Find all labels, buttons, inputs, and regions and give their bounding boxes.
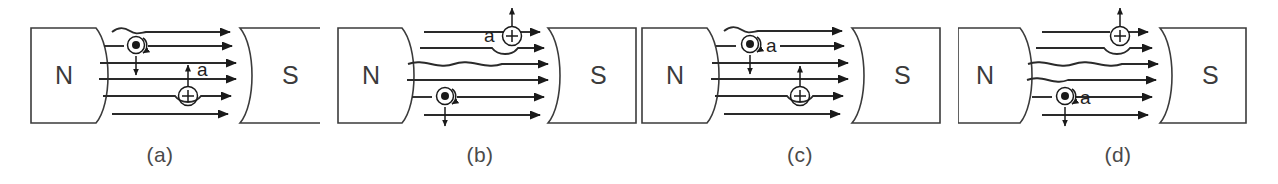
charge-negative: a — [1057, 87, 1092, 126]
acceleration-label-a: a — [484, 25, 495, 46]
acceleration-label-a: a — [766, 35, 777, 56]
south-pole-label: S — [590, 61, 607, 89]
south-pole-block — [240, 28, 320, 123]
charge-positive: a — [179, 59, 209, 106]
south-pole-label: S — [282, 61, 299, 89]
charge-positive — [1111, 8, 1130, 46]
charge-negative — [437, 88, 456, 127]
field-lines — [711, 27, 848, 114]
field-lines — [407, 32, 548, 115]
panel-d: N S — [958, 0, 1278, 184]
figure-root: N S — [0, 0, 1278, 184]
plus-sign-icon — [506, 30, 518, 42]
north-pole-label: N — [976, 61, 994, 89]
north-pole-label: N — [362, 61, 380, 89]
charge-negative — [128, 37, 147, 76]
charge-positive: a — [484, 8, 522, 46]
electron-dot-center — [1061, 92, 1069, 100]
panel-caption-d: (d) — [958, 143, 1278, 167]
panel-caption-c: (c) — [640, 143, 960, 167]
electron-dot-center — [441, 92, 449, 100]
north-pole-label: N — [55, 61, 73, 89]
south-pole-label: S — [1202, 61, 1219, 89]
field-lines — [1027, 32, 1158, 115]
plus-sign-icon — [182, 90, 194, 102]
plus-sign-icon — [794, 90, 806, 102]
north-pole-block — [958, 28, 1032, 123]
panel-caption-a: (a) — [0, 143, 320, 167]
acceleration-label-a: a — [197, 59, 208, 80]
electron-dot-center — [132, 41, 140, 49]
charge-positive — [791, 66, 810, 106]
electron-dot-center — [746, 40, 754, 48]
south-pole-label: S — [894, 61, 911, 89]
acceleration-label-a: a — [1080, 87, 1091, 108]
north-pole-label: N — [666, 61, 684, 89]
panel-b: N S — [320, 0, 640, 184]
plus-sign-icon — [1114, 30, 1126, 42]
panel-c: N S — [640, 0, 960, 184]
panel-caption-b: (b) — [320, 143, 640, 167]
panel-a: N S — [0, 0, 320, 184]
charge-negative: a — [742, 35, 778, 74]
field-lines — [99, 28, 236, 114]
